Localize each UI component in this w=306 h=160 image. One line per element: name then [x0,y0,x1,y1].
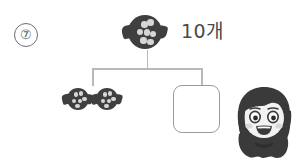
quantity-label: 10개 [181,16,224,43]
candy-dot [75,104,79,108]
candy-dot [74,92,78,96]
candy-dot [107,99,111,103]
candy-dot [78,99,82,103]
girl-character-illustration [227,82,305,160]
connector-drop-right [201,68,203,86]
candy-dot [101,99,105,103]
answer-box-value [174,86,219,132]
candy-dot [147,19,153,25]
connector-stem [147,50,149,69]
worksheet-page: ⑦ 10개 [0,0,306,160]
candy-dot [82,97,86,101]
candy-icon-part-1 [62,85,94,112]
candy-dot [140,37,146,43]
candy-dot [79,91,83,95]
candy-dot [72,99,76,103]
candy-dot [150,31,156,37]
candy-dot [103,92,107,96]
candy-dot [111,97,115,101]
candy-dot [144,29,150,35]
candy-icon-whole [120,11,170,53]
candy-dot [137,29,143,35]
candy-body [67,88,89,110]
connector-bar [92,68,203,70]
answer-box[interactable] [173,85,220,133]
candy-body [96,88,118,110]
candy-dot [108,91,112,95]
candy-body [128,15,162,49]
candy-dot [104,104,108,108]
candy-icon-part-2 [91,85,123,112]
problem-number: ⑦ [14,23,38,47]
connector-drop-left [92,68,94,86]
candy-dot [147,39,153,45]
